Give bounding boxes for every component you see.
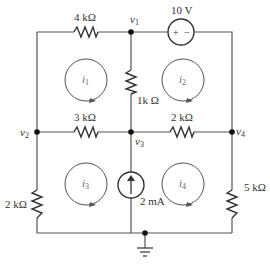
label-mesh-i4: i4 <box>179 178 186 191</box>
label-node-v3: v3 <box>135 136 144 149</box>
resistor-5k-icon <box>227 190 237 218</box>
label-node-v4: v4 <box>236 126 245 139</box>
label-voltage-source: 10 V <box>171 5 193 16</box>
label-node-v1: v1 <box>130 14 139 27</box>
resistor-3k-icon <box>74 127 98 137</box>
node-v3-dot <box>128 129 134 135</box>
label-resistor-4k: 4 kΩ <box>74 12 96 23</box>
resistor-2k-mid-icon <box>170 127 194 137</box>
voltage-source-icon: + − <box>168 19 194 45</box>
label-current-source: 2 mA <box>140 196 165 207</box>
resistor-1k-icon <box>126 70 136 94</box>
label-resistor-1k: 1k Ω <box>137 95 159 106</box>
label-mesh-i2: i2 <box>179 74 186 87</box>
node-ground-dot <box>142 230 148 236</box>
label-resistor-2k-left: 2 kΩ <box>5 199 27 210</box>
minus-sign: − <box>184 27 190 38</box>
label-resistor-3k: 3 kΩ <box>74 112 96 123</box>
plus-sign: + <box>173 27 179 38</box>
label-resistor-2k-mid: 2 kΩ <box>171 112 193 123</box>
label-resistor-5k: 5 kΩ <box>244 182 266 193</box>
resistor-4k-icon <box>74 27 98 37</box>
resistor-2k-left-icon <box>32 190 42 218</box>
ground-icon <box>137 248 153 256</box>
node-v1-dot <box>128 29 134 35</box>
node-v2-dot <box>34 129 40 135</box>
label-mesh-i3: i3 <box>82 178 89 191</box>
label-mesh-i1: i1 <box>82 74 89 87</box>
label-node-v2: v2 <box>20 127 29 140</box>
node-v4-dot <box>229 129 235 135</box>
